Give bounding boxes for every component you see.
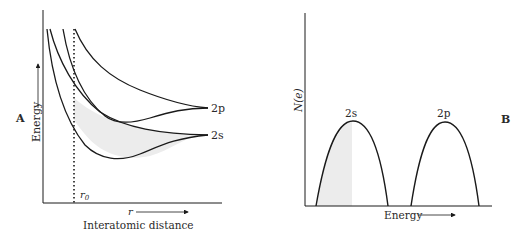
band-2p-label: 2p (437, 107, 451, 119)
band-2p-curve (411, 122, 479, 206)
curve-2p-upper (75, 29, 208, 108)
y-axis-label-b: N(e) (292, 88, 304, 113)
panel-a: Energy r Interatomic distance r0 2p 2s A (15, 10, 225, 231)
figure: Energy r Interatomic distance r0 2p 2s A… (0, 0, 518, 239)
r0-label: r0 (80, 189, 90, 202)
x-axis-label-b: Energy (384, 209, 422, 221)
label-2p: 2p (211, 102, 225, 115)
band-2s-label: 2s (345, 107, 357, 119)
x-axis-symbol: r (128, 206, 134, 217)
label-2s: 2s (211, 129, 224, 142)
panel-a-label: A (15, 112, 25, 125)
shaded-2s-filled-region (316, 121, 352, 206)
panel-b-label: B (501, 113, 510, 126)
panel-b: 2s 2p N(e) Energy B (292, 13, 510, 221)
shaded-2s-band-region (74, 98, 196, 158)
y-axis-label: Energy (30, 101, 43, 142)
x-axis-label: Interatomic distance (83, 219, 194, 231)
